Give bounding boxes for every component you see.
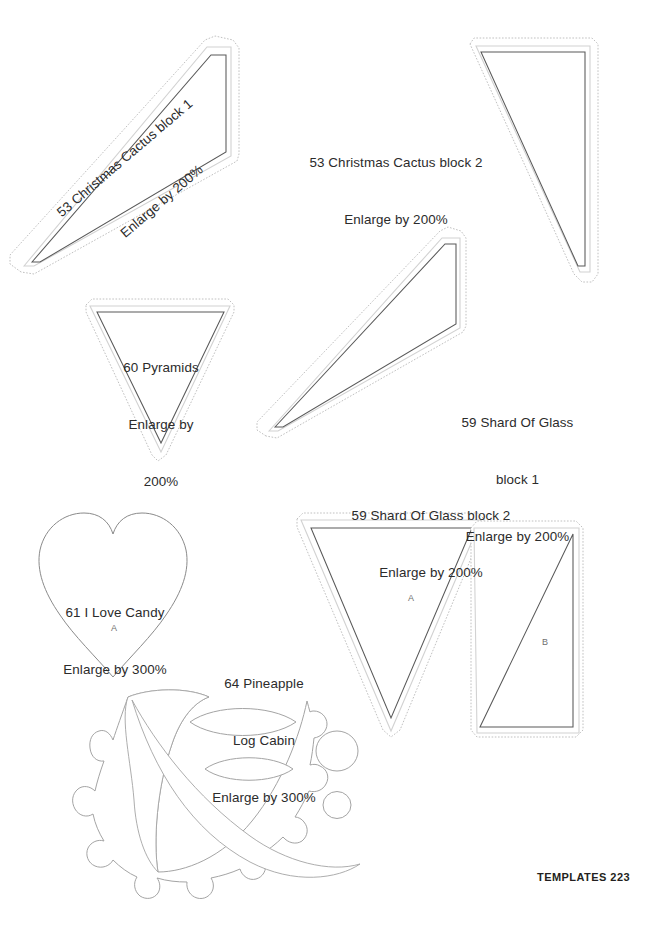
label-pyramids-line3: 200% — [96, 472, 226, 491]
label-pineapple-log-cabin-line1: 64 Pineapple — [194, 674, 334, 693]
label-pyramids-line2: Enlarge by — [96, 415, 226, 434]
label-christmas-cactus-block-2-line1: 53 Christmas Cactus block 2 — [296, 153, 496, 172]
label-i-love-candy-line2: Enlarge by 300% — [48, 660, 182, 679]
label-i-love-candy-line1: 61 I Love Candy — [48, 603, 182, 622]
label-pineapple-log-cabin-line3: Enlarge by 300% — [194, 788, 334, 807]
label-shard-of-glass-block-2-line1: 59 Shard Of Glass block 2 — [325, 506, 537, 525]
label-shard-of-glass-block-1-line1: 59 Shard Of Glass — [440, 413, 595, 432]
piece-mark-heart-a: A — [111, 623, 117, 633]
page-footer-templates: TEMPLATES 223 — [537, 871, 630, 883]
label-shard-of-glass-block-2-line2: Enlarge by 200% — [325, 563, 537, 582]
piece-mark-shard-triangle-b: B — [542, 637, 548, 647]
label-pineapple-log-cabin: 64 Pineapple Log Cabin Enlarge by 300% — [194, 636, 334, 845]
label-christmas-cactus-block-2: 53 Christmas Cactus block 2 Enlarge by 2… — [296, 115, 496, 267]
label-i-love-candy: 61 I Love Candy Enlarge by 300% — [48, 565, 182, 717]
label-pineapple-log-cabin-line2: Log Cabin — [194, 731, 334, 750]
templates-page: 53 Christmas Cactus block 1 Enlarge by 2… — [0, 0, 653, 933]
label-pyramids: 60 Pyramids Enlarge by 200% — [96, 320, 226, 529]
piece-mark-shard-triangle-a: A — [408, 593, 414, 603]
label-christmas-cactus-block-2-line2: Enlarge by 200% — [296, 210, 496, 229]
label-shard-of-glass-block-2: 59 Shard Of Glass block 2 Enlarge by 200… — [325, 468, 537, 620]
label-pyramids-line1: 60 Pyramids — [96, 358, 226, 377]
